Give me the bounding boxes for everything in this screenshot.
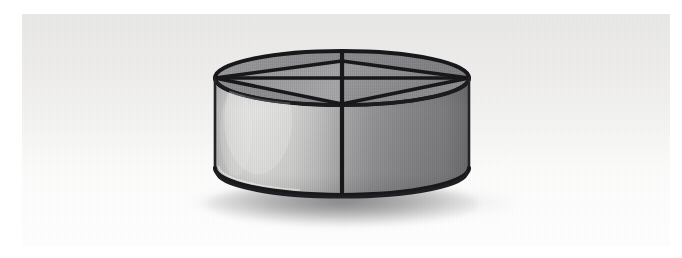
photo-frame [0,0,682,258]
cylindrical-mesh-object [0,0,682,258]
left-edge-highlight [220,88,252,176]
